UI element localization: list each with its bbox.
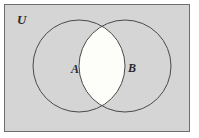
set-a-label: A xyxy=(70,62,79,76)
universal-set-label: U xyxy=(17,12,27,27)
venn-diagram-canvas: U A B xyxy=(0,0,199,138)
set-b-label: B xyxy=(127,61,136,75)
venn-diagram-figure: U A B xyxy=(0,0,199,138)
